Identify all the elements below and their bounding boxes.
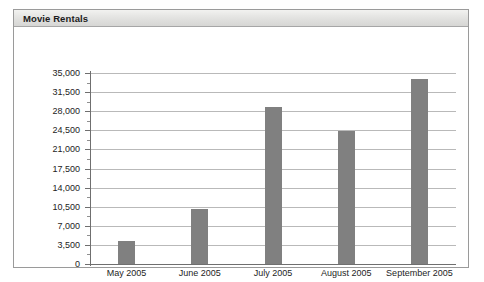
y-axis-tick-label-holder: 17,500 — [18, 169, 80, 170]
page-title: Movie Rentals — [14, 13, 88, 24]
y-axis-tick-label: 14,000 — [18, 183, 80, 193]
y-axis-tick-label: 35,000 — [18, 68, 80, 78]
y-axis-tick-label-holder: 35,000 — [18, 73, 80, 74]
panel-title-bar: Movie Rentals — [14, 10, 468, 27]
y-axis-tick-label-holder: 21,000 — [18, 149, 80, 150]
bar — [411, 79, 428, 264]
y-axis-line — [90, 71, 91, 266]
y-axis-tick-label-holder: 0 — [18, 264, 80, 265]
y-axis-tick-label: 17,500 — [18, 164, 80, 174]
y-axis-tick-label-holder: 10,500 — [18, 207, 80, 208]
y-axis-tick-label-holder: 3,500 — [18, 245, 80, 246]
chart-panel: Movie Rentals 35,00031,50028,00024,50021… — [13, 9, 469, 268]
y-axis-tick-label-holder: 31,500 — [18, 92, 80, 93]
x-axis-line — [90, 264, 456, 265]
y-axis-tick-label-holder: 28,000 — [18, 111, 80, 112]
y-axis-tick-label: 28,000 — [18, 106, 80, 116]
bar — [118, 241, 135, 264]
gridline — [90, 92, 456, 93]
bar — [265, 107, 282, 264]
y-axis-tick-label-holder: 24,500 — [18, 130, 80, 131]
y-axis-tick-label-holder: 7,000 — [18, 226, 80, 227]
x-axis-tick-label: May 2005 — [107, 268, 147, 278]
bar-chart: 35,00031,50028,00024,50021,00017,50014,0… — [14, 27, 468, 267]
x-axis-tick-label: September 2005 — [386, 268, 453, 278]
y-axis-tick-label: 31,500 — [18, 87, 80, 97]
y-axis-tick-label: 0 — [18, 259, 80, 269]
y-axis-tick-label: 10,500 — [18, 202, 80, 212]
bar — [338, 131, 355, 264]
y-axis-tick-label-holder: 14,000 — [18, 188, 80, 189]
gridline — [90, 73, 456, 74]
chart-plot-area: 35,00031,50028,00024,50021,00017,50014,0… — [14, 27, 468, 267]
bar — [191, 209, 208, 264]
x-axis-tick-label: August 2005 — [321, 268, 372, 278]
y-axis-tick-label: 21,000 — [18, 144, 80, 154]
y-axis-tick-label: 24,500 — [18, 125, 80, 135]
y-axis-tick-label: 3,500 — [18, 240, 80, 250]
x-axis-tick-label: June 2005 — [179, 268, 221, 278]
y-axis-tick-label: 7,000 — [18, 221, 80, 231]
x-axis-tick-label: July 2005 — [254, 268, 293, 278]
